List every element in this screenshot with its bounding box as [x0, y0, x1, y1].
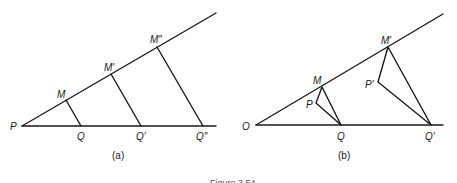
segment-M2Q2-a [157, 47, 203, 126]
figure-caption: Figure 3.54 [210, 178, 256, 183]
label-P-a: P [10, 121, 17, 132]
panel-a: P M M′ M″ Q Q′ Q″ (a) [10, 13, 216, 161]
label-P-b: P [306, 99, 313, 110]
panel-label-a: (a) [112, 150, 124, 161]
triangle-M1P1Q1-b [378, 47, 431, 125]
label-M-b: M [313, 75, 322, 86]
segment-MQ-a [66, 100, 81, 126]
label-P1-b: P′ [365, 79, 375, 90]
label-Q2-a: Q″ [196, 131, 208, 142]
label-Q1-a: Q′ [136, 131, 147, 142]
triangle-MPQ-b [316, 87, 341, 125]
panel-b: O M P Q M′ P′ Q′ (b) [242, 14, 443, 161]
panel-label-b: (b) [338, 150, 350, 161]
ray-upper-b [256, 14, 443, 125]
label-M2-a: M″ [150, 34, 162, 45]
label-Q1-b: Q′ [425, 131, 436, 142]
label-M1-b: M′ [381, 35, 392, 46]
label-M-a: M [57, 89, 66, 100]
label-Q-b: Q [337, 131, 345, 142]
label-Q-a: Q [77, 131, 85, 142]
ray-upper-a [22, 13, 216, 126]
label-O-b: O [242, 121, 250, 132]
label-M1-a: M′ [104, 62, 115, 73]
segment-M1Q1-a [111, 74, 141, 126]
figure-canvas: P M M′ M″ Q Q′ Q″ (a) O M P Q M′ P′ Q′ (… [0, 0, 457, 183]
